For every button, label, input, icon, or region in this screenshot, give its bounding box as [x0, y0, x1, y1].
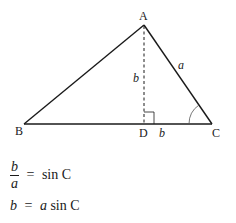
- right-angle-marker: [144, 112, 154, 124]
- fraction-numerator: b: [10, 160, 19, 176]
- triangle-diagram: A B C D a b b: [0, 0, 236, 150]
- sin-c-text: sin C: [42, 167, 71, 182]
- base-label-b: b: [159, 126, 165, 140]
- fraction-b-over-a: b a: [10, 160, 19, 191]
- equals-sign: =: [25, 198, 33, 213]
- vertex-label-c: C: [212, 126, 220, 140]
- equation-b-equals-a-sin-c: b = a sin C: [10, 198, 80, 214]
- rhs-sin-c: sin C: [50, 198, 79, 213]
- equation-ratio: b a = sin C: [10, 160, 71, 191]
- vertex-label-b: B: [15, 124, 23, 138]
- equals-sign: =: [27, 167, 35, 182]
- rhs-a: a: [40, 198, 47, 213]
- side-ab: [24, 25, 144, 124]
- height-label-b: b: [133, 71, 139, 85]
- side-ac: [144, 25, 212, 124]
- vertex-label-a: A: [139, 9, 148, 23]
- side-label-a: a: [178, 58, 184, 72]
- lhs-b: b: [10, 198, 17, 213]
- angle-c-arc: [189, 105, 199, 124]
- fraction-denominator: a: [11, 176, 18, 191]
- vertex-label-d: D: [139, 126, 148, 140]
